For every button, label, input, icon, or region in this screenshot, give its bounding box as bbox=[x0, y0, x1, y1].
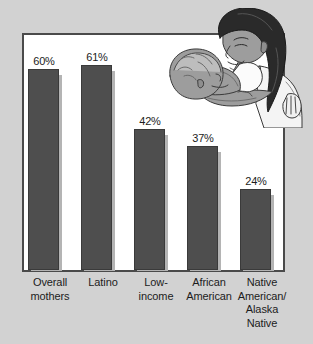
figure-root: 60% 61% 42% 37% 24% bbox=[0, 0, 313, 344]
category-line: Native bbox=[231, 276, 293, 290]
category-axis-labels: Overall mothers Latino Low- income Afric… bbox=[22, 276, 285, 342]
bar-low-income[interactable] bbox=[134, 129, 165, 270]
bar-value-label: 42% bbox=[128, 115, 172, 127]
bar-value-label: 24% bbox=[234, 175, 278, 187]
mother-and-baby-illustration bbox=[168, 8, 313, 128]
category-line: American/ bbox=[231, 290, 293, 304]
category-label-native-american-alaska-native: Native American/ Alaska Native bbox=[231, 276, 293, 330]
bar-overall-mothers[interactable] bbox=[28, 69, 59, 270]
category-line: Native bbox=[231, 317, 293, 331]
bar-latino[interactable] bbox=[81, 65, 112, 270]
bar-value-label: 37% bbox=[181, 132, 225, 144]
mother-ear bbox=[261, 42, 267, 53]
bar-value-label: 60% bbox=[22, 55, 66, 67]
category-line: Alaska bbox=[231, 303, 293, 317]
category-line: mothers bbox=[19, 290, 81, 304]
bar-native-american-alaska-native[interactable] bbox=[240, 189, 271, 270]
baby-ear bbox=[198, 79, 204, 87]
bar-value-label: 61% bbox=[75, 51, 119, 63]
bar-african-american[interactable] bbox=[187, 146, 218, 270]
